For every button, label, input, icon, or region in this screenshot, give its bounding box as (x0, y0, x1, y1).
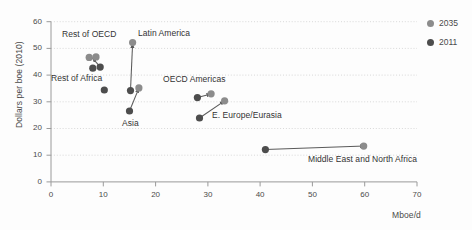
point-2011-rest-of-oecd-b (89, 65, 96, 72)
x-tick-70: 70 (407, 190, 427, 199)
y-tick-60: 60 (26, 17, 42, 26)
y-axis-title: Dollars per boe (2010) (14, 41, 24, 128)
x-tick-30: 30 (198, 190, 218, 199)
x-tick-20: 20 (146, 190, 166, 199)
y-axis-ticks (47, 22, 52, 182)
y-tick-50: 50 (26, 43, 42, 52)
transition-arrows (93, 44, 365, 150)
label-rest-of-africa: Rest of Africa (51, 73, 102, 83)
legend-label-2011: 2011 (439, 38, 457, 47)
point-2011-oecd-americas (194, 94, 201, 101)
point-2011-mena (262, 146, 269, 153)
point-2035-e-europe (221, 97, 228, 104)
y-tick-0: 0 (26, 177, 42, 186)
point-2011-latin-america (127, 87, 134, 94)
x-axis-title: Mboe/d (392, 210, 421, 220)
point-2035-mena (360, 143, 367, 150)
point-2035-asia (135, 84, 142, 91)
label-oecd-americas: OECD Americas (163, 74, 226, 84)
point-2011-asia (126, 107, 133, 114)
y-tick-10: 10 (26, 150, 42, 159)
scatter-chart: Dollars per boe (2010) Mboe/d 60 50 40 3… (0, 0, 472, 230)
y-tick-40: 40 (26, 70, 42, 79)
x-tick-60: 60 (355, 190, 375, 199)
arrow-latin-america (131, 44, 133, 91)
label-asia: Asia (122, 118, 139, 128)
label-rest-of-oecd: Rest of OECD (62, 29, 116, 39)
legend-item-2035[interactable]: 2035 (427, 19, 458, 28)
y-tick-20: 20 (26, 123, 42, 132)
series-2035-points (86, 39, 368, 150)
x-axis-ticks (51, 182, 417, 187)
x-tick-40: 40 (250, 190, 270, 199)
label-e-europe-eurasia: E. Europe/Eurasia (212, 110, 282, 120)
y-tick-30: 30 (26, 97, 42, 106)
label-mena: Middle East and North Africa (308, 154, 417, 164)
point-2035-latin-america (129, 39, 136, 46)
legend-label-2035: 2035 (439, 19, 458, 28)
point-2035-rest-of-oecd (92, 53, 99, 60)
legend-item-2011[interactable]: 2011 (427, 38, 457, 47)
label-latin-america: Latin America (138, 28, 190, 38)
x-tick-50: 50 (302, 190, 322, 199)
point-2011-rest-of-oecd (97, 64, 104, 71)
legend-swatch-2035-icon (427, 20, 434, 27)
x-tick-10: 10 (93, 190, 113, 199)
legend-swatch-2011-icon (427, 39, 434, 46)
point-2011-rest-of-africa (101, 86, 108, 93)
point-2035-oecd-americas (208, 90, 215, 97)
x-tick-0: 0 (41, 190, 61, 199)
point-2035-rest-of-oecd-b (86, 54, 93, 61)
arrow-mena (265, 146, 364, 150)
point-2011-e-europe (196, 114, 203, 121)
